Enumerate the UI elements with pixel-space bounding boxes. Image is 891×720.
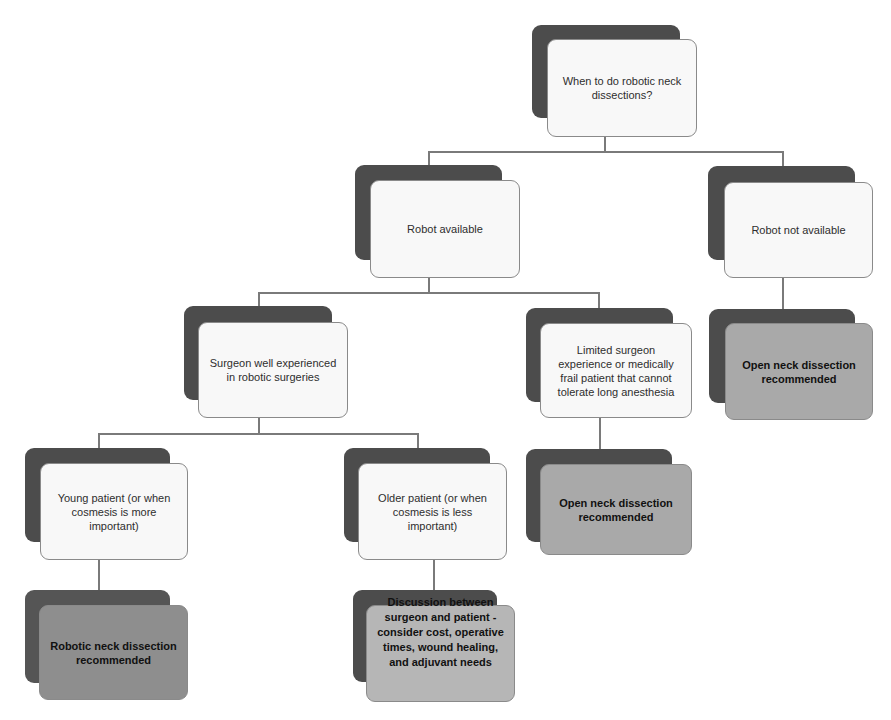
node-robot-available: Robot available [370,180,520,278]
node-label: Discussion between surgeon and patient -… [375,595,506,670]
node-label: Surgeon well experienced in robotic surg… [207,356,339,384]
node-label: Robotic neck dissection recommended [48,639,179,667]
connector-level3-bar [98,433,418,435]
node-limited-experience: Limited surgeon experience or medically … [540,323,692,418]
connector-surgeon-down [258,418,260,434]
node-label: Robot not available [751,223,845,237]
node-label: Robot available [407,222,483,236]
node-root-question: When to do robotic neck dissections? [547,39,697,137]
node-label: Open neck dissection recommended [734,358,864,386]
node-label: Older patient (or when cosmesis is less … [367,491,498,533]
node-discussion: Discussion between surgeon and patient -… [366,605,515,702]
node-open-neck-dissection-right: Open neck dissection recommended [725,323,873,420]
node-surgeon-experienced: Surgeon well experienced in robotic surg… [198,322,348,418]
node-label: When to do robotic neck dissections? [556,74,688,102]
connector-robot-available-down [428,278,430,293]
node-label: Open neck dissection recommended [549,496,683,524]
node-label: Limited surgeon experience or medically … [549,343,683,399]
node-robotic-neck-dissection: Robotic neck dissection recommended [39,605,188,700]
connector-level2-bar [258,292,600,294]
node-label: Young patient (or when cosmesis is more … [49,491,179,533]
node-young-patient: Young patient (or when cosmesis is more … [40,463,188,560]
node-open-neck-dissection-middle: Open neck dissection recommended [540,464,692,555]
node-older-patient: Older patient (or when cosmesis is less … [358,463,507,560]
node-robot-not-available: Robot not available [724,182,873,278]
connector-root-down [604,137,606,152]
connector-level1-bar [428,151,784,153]
